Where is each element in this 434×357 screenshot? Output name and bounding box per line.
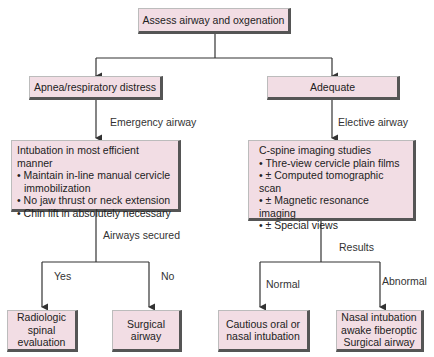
node-assess-airway: Assess airway and oxgenation xyxy=(138,8,291,34)
node-label: Apnea/respiratory distress xyxy=(34,81,156,94)
edge-label-results: Results xyxy=(339,241,374,253)
node-surgical-airway: Surgical airway xyxy=(112,310,182,352)
node-label: Assess airway and oxgenation xyxy=(143,14,285,27)
detail-item: • ± Computed tomographic scan xyxy=(259,169,408,194)
node-label-line: Surgical airway xyxy=(343,336,414,349)
detail-heading: Intubation in most efficient manner xyxy=(17,144,173,169)
node-adequate: Adequate xyxy=(267,76,400,100)
edge-label-emergency: Emergency airway xyxy=(110,116,196,128)
detail-item: • ± Special views xyxy=(259,219,408,232)
node-radiologic-evaluation: Radiologic spinal evaluation xyxy=(7,310,78,352)
node-label: Surgical airway xyxy=(113,318,179,343)
detail-item: • Thre-view cervicle plain films xyxy=(259,157,408,170)
node-label: Adequate xyxy=(310,81,355,94)
detail-heading: C-spine imaging studies xyxy=(259,144,408,157)
detail-item: • No jaw thrust or neck extension xyxy=(17,194,173,207)
edge-label-no: No xyxy=(161,270,174,282)
edge-label-airways-secured: Airways secured xyxy=(103,229,180,241)
node-cspine-imaging: C-spine imaging studies • Thre-view cerv… xyxy=(248,140,416,221)
edge-label-abnormal: Abnormal xyxy=(382,275,427,287)
detail-item: • Chin lift in absolutely necessary xyxy=(17,207,173,220)
node-nasal-intubation: Nasal intubation awake fiberoptic Surgic… xyxy=(336,310,424,352)
node-label-line: Nasal intubation xyxy=(341,311,416,324)
node-intubation-detail: Intubation in most efficient manner • Ma… xyxy=(11,140,181,212)
node-cautious-intubation: Cautious oral or nasal intubation xyxy=(218,310,310,352)
node-label: Cautious oral or nasal intubation xyxy=(219,318,307,343)
edge-label-normal: Normal xyxy=(266,278,300,290)
edge-label-yes: Yes xyxy=(54,270,71,282)
detail-item: • Maintain in-line manual cervicle immob… xyxy=(17,169,173,194)
node-label-line: awake fiberoptic xyxy=(341,324,417,337)
edge-label-elective: Elective airway xyxy=(338,116,408,128)
node-label: Radiologic spinal evaluation xyxy=(8,311,75,349)
detail-item: • ± Magnetic resonance imaging xyxy=(259,194,408,219)
node-apnea: Apnea/respiratory distress xyxy=(29,76,163,100)
